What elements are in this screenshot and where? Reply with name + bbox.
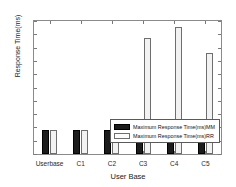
legend-item-rr: Maximum Response Time(ms)RR xyxy=(113,131,217,140)
x-tick-mark-top xyxy=(143,21,144,24)
chart-legend: Maximum Response Time(ms)MM Maximum Resp… xyxy=(110,119,220,143)
chart-figure: Response Time(ms) 0100200300400500600700… xyxy=(0,0,236,187)
y-tick-mark-right xyxy=(218,88,221,89)
bar-mm-c1 xyxy=(73,130,80,154)
legend-item-mm: Maximum Response Time(ms)MM xyxy=(113,122,217,131)
x-axis-label: User Base xyxy=(33,172,223,181)
bar-rr-userbase xyxy=(50,130,57,154)
x-tick-mark-top xyxy=(81,21,82,24)
y-tick-mark xyxy=(34,127,37,128)
legend-label-mm: Maximum Response Time(ms)MM xyxy=(133,124,215,130)
y-tick-mark xyxy=(34,48,37,49)
legend-swatch-mm-icon xyxy=(114,124,130,130)
y-tick-mark-right xyxy=(218,34,221,35)
y-axis-label: Response Time(ms) xyxy=(14,0,22,101)
y-tick-mark xyxy=(34,21,37,22)
y-tick-mark xyxy=(34,154,37,155)
y-tick-mark-right xyxy=(218,74,221,75)
legend-label-rr: Maximum Response Time(ms)RR xyxy=(133,133,214,139)
y-tick-mark-right xyxy=(218,21,221,22)
y-tick-mark xyxy=(34,101,37,102)
x-tick-mark-top xyxy=(112,21,113,24)
y-tick-mark xyxy=(34,74,37,75)
x-tick-label: C5 xyxy=(185,160,225,167)
bar-mm-userbase xyxy=(42,130,49,154)
y-tick-mark xyxy=(34,61,37,62)
bar-rr-c1 xyxy=(81,130,88,154)
y-tick-mark-right xyxy=(218,48,221,49)
y-tick-mark-right xyxy=(218,154,221,155)
y-tick-mark xyxy=(34,141,37,142)
y-tick-mark-right xyxy=(218,101,221,102)
y-tick-mark-right xyxy=(218,114,221,115)
y-tick-mark-right xyxy=(218,61,221,62)
x-tick-mark-top xyxy=(174,21,175,24)
x-tick-mark-top xyxy=(50,21,51,24)
legend-swatch-rr-icon xyxy=(114,133,130,139)
y-tick-mark xyxy=(34,114,37,115)
y-tick-mark xyxy=(34,34,37,35)
x-tick-mark-top xyxy=(205,21,206,24)
y-tick-mark xyxy=(34,88,37,89)
